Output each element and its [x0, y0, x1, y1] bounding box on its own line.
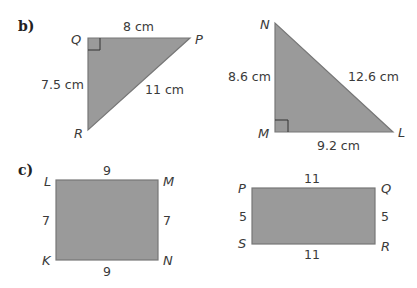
- vertex-q: Q: [71, 32, 81, 47]
- side-bottom-length: 9: [103, 264, 111, 279]
- side-nl-length: 12.6 cm: [348, 69, 399, 84]
- side-bottom-length: 11: [304, 247, 320, 262]
- vertex-r: R: [381, 239, 390, 254]
- vertex-s: S: [238, 236, 246, 251]
- rectangle-pqrs: P Q R S 11 11 5 5: [238, 171, 391, 262]
- side-nm-length: 8.6 cm: [228, 69, 271, 84]
- rectangle-lmnk-shape: [56, 180, 158, 260]
- rectangle-lmnk: L M N K 9 9 7 7: [42, 163, 174, 279]
- side-qr-length: 7.5 cm: [41, 77, 84, 92]
- part-label-b: b): [18, 18, 34, 34]
- vertex-m: M: [258, 126, 269, 141]
- vertex-n: N: [260, 17, 270, 32]
- rectangle-pqrs-shape: [252, 188, 375, 244]
- side-ml-length: 9.2 cm: [317, 138, 360, 153]
- side-qp-length: 8 cm: [123, 19, 154, 34]
- triangle-pqr: Q P R 8 cm 7.5 cm 11 cm: [41, 19, 203, 141]
- diagram-canvas: b) Q P R 8 cm 7.5 cm 11 cm N M L 8.6 cm …: [0, 0, 417, 288]
- side-left-length: 7: [42, 213, 50, 228]
- side-right-length: 5: [381, 209, 389, 224]
- vertex-p: P: [195, 32, 203, 47]
- vertex-m: M: [163, 174, 174, 189]
- triangle-nml: N M L 8.6 cm 12.6 cm 9.2 cm: [228, 17, 405, 153]
- vertex-r: R: [74, 126, 83, 141]
- side-left-length: 5: [239, 209, 247, 224]
- side-right-length: 7: [163, 213, 171, 228]
- side-top-length: 11: [304, 171, 320, 186]
- vertex-l: L: [44, 174, 51, 189]
- vertex-n: N: [163, 253, 173, 268]
- vertex-k: K: [42, 253, 52, 268]
- vertex-l: L: [398, 125, 405, 140]
- vertex-p: P: [238, 181, 246, 196]
- part-label-c: c): [18, 162, 33, 178]
- side-pr-length: 11 cm: [145, 82, 184, 97]
- side-top-length: 9: [103, 163, 111, 178]
- vertex-q: Q: [381, 181, 391, 196]
